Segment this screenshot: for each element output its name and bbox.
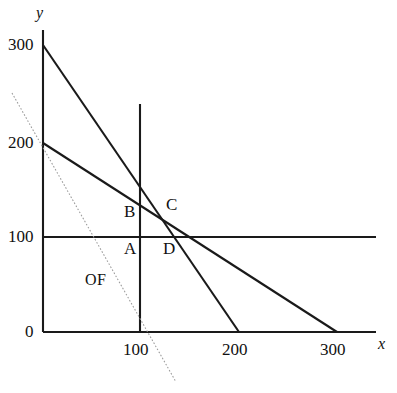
x-tick-label-200: 200 (222, 341, 248, 358)
x-axis-label: x (378, 336, 385, 352)
plot-area (0, 0, 397, 393)
y-tick-label-200: 200 (8, 134, 34, 151)
vertex-label-d: D (163, 240, 175, 257)
vertex-label-c: C (166, 196, 177, 213)
feasible-region-graph: y x 0 100 200 300 100 200 300 A B C D OF (0, 0, 397, 393)
vertex-label-b: B (124, 203, 135, 220)
vertex-label-a: A (124, 240, 136, 257)
y-tick-label-300: 300 (8, 36, 34, 53)
y-axis-label: y (36, 5, 43, 21)
y-tick-label-100: 100 (8, 228, 34, 245)
origin-tick-label: 0 (25, 323, 34, 340)
objective-function-label: OF (85, 272, 106, 288)
x-tick-label-100: 100 (123, 341, 149, 358)
x-tick-label-300: 300 (320, 341, 346, 358)
